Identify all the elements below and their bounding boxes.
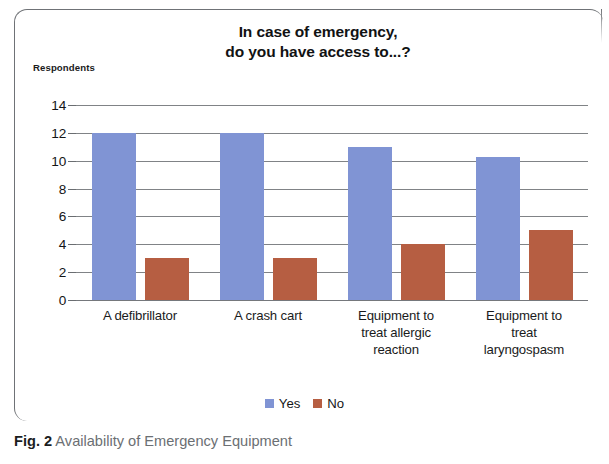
y-tick-label-0: 0	[30, 293, 66, 308]
legend-label-yes: Yes	[279, 396, 301, 411]
figure-number: Fig. 2	[14, 433, 52, 449]
gridline-0	[76, 300, 588, 301]
figure-caption: Fig. 2 Availability of Emergency Equipme…	[14, 431, 594, 451]
legend-item-no[interactable]: No	[313, 396, 344, 411]
y-tick-label-8: 8	[30, 181, 66, 196]
y-tick-mark-0	[68, 300, 76, 301]
gridline-14	[76, 105, 588, 106]
y-axis-title: Respondents	[33, 62, 95, 73]
y-tick-label-10: 10	[30, 153, 66, 168]
figure-container: In case of emergency, do you have access…	[0, 0, 609, 464]
legend-label-no: No	[327, 396, 344, 411]
x-axis-label-line: treat allergic	[332, 324, 460, 341]
y-tick-label-6: 6	[30, 209, 66, 224]
y-tick-label-14: 14	[30, 98, 66, 113]
x-axis-label-line: reaction	[332, 341, 460, 358]
x-axis-label-1: A crash cart	[204, 307, 332, 324]
bar-no-0	[145, 258, 189, 300]
x-axis-label-line: A crash cart	[204, 307, 332, 324]
x-axis-label-3: Equipment totreatlaryngospasm	[460, 307, 588, 358]
y-tick-mark-6	[68, 216, 76, 217]
gridline-12	[76, 133, 588, 134]
x-axis-category-labels: A defibrillatorA crash cartEquipment tot…	[76, 307, 588, 387]
y-tick-label-4: 4	[30, 237, 66, 252]
bar-yes-3	[476, 157, 520, 300]
legend-swatch-icon-yes	[265, 399, 274, 408]
plot-area: 02468101214	[76, 105, 588, 300]
y-tick-mark-4	[68, 244, 76, 245]
chart-title: In case of emergency, do you have access…	[118, 22, 518, 62]
bar-yes-2	[348, 147, 392, 300]
bar-no-2	[401, 244, 445, 300]
y-tick-mark-12	[68, 133, 76, 134]
x-axis-label-line: Equipment to	[332, 307, 460, 324]
x-axis-label-2: Equipment totreat allergicreaction	[332, 307, 460, 358]
chart-legend: YesNo	[0, 396, 609, 411]
chart-title-line-1: In case of emergency,	[239, 23, 398, 40]
figure-caption-text: Availability of Emergency Equipment	[55, 433, 292, 449]
x-axis-label-0: A defibrillator	[76, 307, 204, 324]
y-tick-mark-10	[68, 161, 76, 162]
x-axis-label-line: laryngospasm	[460, 341, 588, 358]
chart-title-line-2: do you have access to...?	[118, 42, 518, 62]
y-tick-label-2: 2	[30, 265, 66, 280]
x-axis-label-line: Equipment to	[460, 307, 588, 324]
legend-item-yes[interactable]: Yes	[265, 396, 301, 411]
chart-frame-right-edge	[601, 9, 602, 43]
x-axis-label-line: treat	[460, 324, 588, 341]
bar-yes-1	[220, 133, 264, 300]
y-tick-mark-8	[68, 189, 76, 190]
y-tick-label-12: 12	[30, 125, 66, 140]
bar-yes-0	[92, 133, 136, 300]
bar-no-1	[273, 258, 317, 300]
x-axis-label-line: A defibrillator	[76, 307, 204, 324]
y-tick-mark-2	[68, 272, 76, 273]
y-tick-mark-14	[68, 105, 76, 106]
bar-no-3	[529, 230, 573, 300]
legend-swatch-icon-no	[313, 399, 322, 408]
